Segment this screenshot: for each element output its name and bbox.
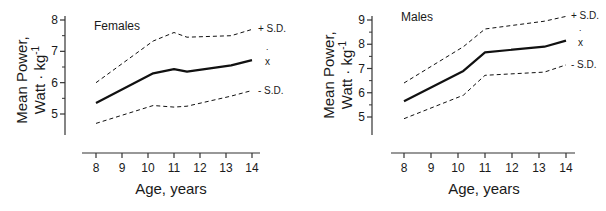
y-axis-title-line1: Mean Power, xyxy=(320,31,337,119)
y-tick-label: 8 xyxy=(358,37,365,51)
figure: 5678891011121314Age, yearsMean Power,Wat… xyxy=(0,0,606,211)
x-axis-title: Age, years xyxy=(135,180,207,197)
y-tick-label: 5 xyxy=(51,107,58,121)
x-tick-label: 14 xyxy=(559,161,573,175)
panel-title: Males xyxy=(401,10,433,24)
chart-panel-females: 5678891011121314Age, yearsMean Power,Wat… xyxy=(13,13,286,197)
y-tick-label: 8 xyxy=(51,13,58,27)
chart-panel-males: 56789891011121314Age, yearsMean Power,Wa… xyxy=(320,10,599,197)
plus-sd-line xyxy=(96,29,252,82)
x-tick-label: 11 xyxy=(479,161,492,175)
y-axis-title-line1: Mean Power, xyxy=(13,36,30,124)
mean-line xyxy=(404,41,566,102)
y-tick-label: 7 xyxy=(358,62,365,76)
plus-sd-label: + S.D. xyxy=(571,10,599,21)
plus-sd-label: + S.D. xyxy=(258,23,286,34)
y-tick-label: 7 xyxy=(51,44,58,58)
y-axis-title-line2: Watt · kg-1 xyxy=(337,40,355,109)
minus-sd-label: - S.D. xyxy=(571,59,597,70)
x-tick-label: 10 xyxy=(141,161,155,175)
x-tick-label: 10 xyxy=(451,161,465,175)
y-tick-label: 6 xyxy=(51,76,58,90)
mean-bar: ˙ xyxy=(579,29,582,40)
x-tick-label: 8 xyxy=(93,161,100,175)
y-tick-label: 9 xyxy=(358,13,365,27)
x-tick-label: 11 xyxy=(168,161,181,175)
x-axis-title: Age, years xyxy=(448,180,520,197)
x-tick-label: 12 xyxy=(505,161,519,175)
x-tick-label: 9 xyxy=(119,161,126,175)
x-tick-label: 9 xyxy=(428,161,435,175)
y-tick-label: 6 xyxy=(358,86,365,100)
mean-bar: ˙ xyxy=(266,48,269,59)
plus-sd-line xyxy=(404,16,566,83)
y-axis-title-line2: Watt · kg-1 xyxy=(30,45,48,114)
minus-sd-line xyxy=(404,65,566,119)
minus-sd-line xyxy=(96,91,252,124)
x-tick-label: 13 xyxy=(532,161,546,175)
x-tick-label: 8 xyxy=(401,161,408,175)
x-tick-label: 13 xyxy=(219,161,233,175)
minus-sd-label: - S.D. xyxy=(258,85,284,96)
panel-title: Females xyxy=(94,19,140,33)
x-tick-label: 12 xyxy=(193,161,207,175)
x-tick-label: 14 xyxy=(245,161,259,175)
y-tick-label: 5 xyxy=(358,110,365,124)
